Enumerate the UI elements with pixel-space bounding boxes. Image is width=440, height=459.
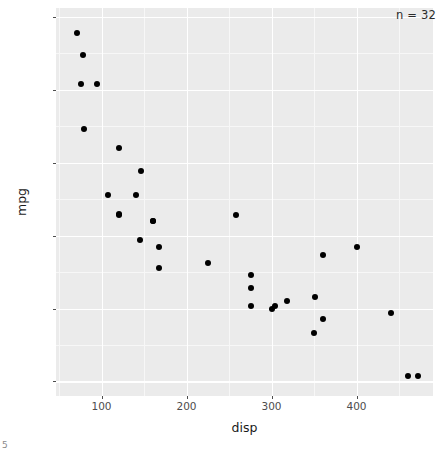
- data-point: [312, 294, 318, 300]
- y-axis-tick-mark: [53, 381, 56, 382]
- data-point: [405, 373, 411, 379]
- data-point: [150, 218, 156, 224]
- data-point: [248, 272, 254, 278]
- data-point: [320, 316, 326, 322]
- data-point: [311, 330, 317, 336]
- gridline-minor-horizontal: [56, 199, 433, 200]
- x-axis-tick-label: 400: [346, 400, 366, 412]
- gridline-major-horizontal: [56, 309, 433, 310]
- gridline-major-horizontal: [56, 163, 433, 164]
- gridline-minor-horizontal: [56, 345, 433, 346]
- gridline-major-vertical: [272, 8, 273, 396]
- x-axis-tick-label: 300: [261, 400, 281, 412]
- gridline-minor-vertical: [229, 8, 230, 396]
- data-point: [354, 244, 360, 250]
- x-axis-tick-mark: [187, 396, 188, 399]
- data-point: [415, 373, 421, 379]
- gridline-major-horizontal: [56, 381, 433, 382]
- gridline-minor-vertical: [59, 8, 60, 396]
- gridline-minor-vertical: [144, 8, 145, 396]
- gridline-minor-horizontal: [56, 53, 433, 54]
- data-point: [81, 126, 87, 132]
- x-axis-tick-mark: [272, 396, 273, 399]
- data-point: [156, 244, 162, 250]
- gridline-major-horizontal: [56, 17, 433, 18]
- x-axis-tick-mark: [102, 396, 103, 399]
- data-point: [116, 145, 122, 151]
- gridline-major-vertical: [187, 8, 188, 396]
- x-axis-tick-mark: [357, 396, 358, 399]
- x-axis-tick-label: 200: [176, 400, 196, 412]
- data-point: [105, 192, 111, 198]
- data-point: [137, 237, 143, 243]
- gridline-major-vertical: [357, 8, 358, 396]
- data-point: [78, 81, 84, 87]
- y-axis-tick-mark: [53, 309, 56, 310]
- gridline-minor-horizontal: [56, 126, 433, 127]
- data-point: [205, 260, 211, 266]
- y-axis-tick-mark: [53, 90, 56, 91]
- data-point: [133, 192, 139, 198]
- y-axis-tick-mark: [53, 163, 56, 164]
- data-point: [284, 298, 290, 304]
- data-point: [388, 310, 394, 316]
- gridline-major-horizontal: [56, 90, 433, 91]
- y-axis-tick-mark: [53, 236, 56, 237]
- data-point: [116, 212, 122, 218]
- x-axis-label: disp: [56, 420, 433, 435]
- y-axis-label: mpg: [14, 8, 30, 396]
- data-point: [80, 52, 86, 58]
- gridline-major-vertical: [102, 8, 103, 396]
- data-point: [248, 303, 254, 309]
- x-axis-tick-label: 100: [91, 400, 111, 412]
- data-point: [248, 285, 254, 291]
- data-point: [74, 30, 80, 36]
- data-point: [94, 81, 100, 87]
- sample-size-annotation: n = 32: [396, 8, 436, 22]
- data-point: [233, 212, 239, 218]
- gridline-major-horizontal: [56, 236, 433, 237]
- y-axis-tick-mark: [53, 17, 56, 18]
- gridline-minor-horizontal: [56, 272, 433, 273]
- gridline-minor-vertical: [399, 8, 400, 396]
- corner-artifact: 5: [2, 441, 12, 450]
- data-point: [156, 265, 162, 271]
- plot-panel: [56, 8, 433, 396]
- data-point: [320, 252, 326, 258]
- gridline-minor-vertical: [314, 8, 315, 396]
- scatter-plot-figure: n = 32 disp mpg 101520253035100200300400…: [0, 0, 440, 459]
- data-point: [269, 306, 275, 312]
